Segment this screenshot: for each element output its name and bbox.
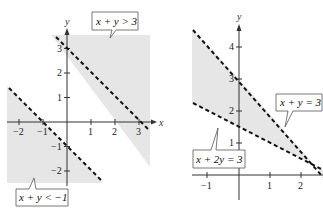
left-y-axis-arrow bbox=[65, 28, 70, 35]
left-y-axis-label: y bbox=[64, 16, 70, 27]
left-y-tick-label: 2 bbox=[57, 67, 62, 78]
left-x-tick-label: 2 bbox=[112, 126, 117, 137]
right-x-tick-label: 1 bbox=[267, 180, 272, 191]
left-y-tick-label: −2 bbox=[51, 165, 62, 176]
left-shaded-regions bbox=[0, 24, 200, 200]
left-x-tick-label: 1 bbox=[88, 126, 93, 137]
right-x-tick-label: −1 bbox=[201, 180, 212, 191]
left-y-tick-label: 1 bbox=[57, 92, 62, 103]
left-graph: x y −2 −1 1 2 3 3 2 1 −1 −2 bbox=[0, 12, 200, 206]
label-x-plus-y-lt-neg1: x + y < −1 bbox=[18, 191, 68, 203]
figure-canvas: x y −2 −1 1 2 3 3 2 1 −1 −2 bbox=[0, 0, 323, 216]
right-y-axis-label: y bbox=[236, 11, 242, 22]
right-graph: y −1 1 2 4 3 2 1 x + y = 3 bbox=[192, 11, 323, 200]
left-x-tick-label: −1 bbox=[37, 126, 48, 137]
callout-x-plus-2y-eq-3: x + 2y = 3 bbox=[193, 128, 245, 168]
left-x-axis-label: x bbox=[158, 117, 164, 128]
right-y-tick-label: 4 bbox=[229, 41, 234, 52]
right-y-axis-arrow bbox=[237, 24, 242, 31]
left-x-tick-label: 3 bbox=[136, 126, 141, 137]
left-x-axis-arrow bbox=[151, 120, 157, 125]
callout-x-plus-y-gt-3: x + y > 3 bbox=[92, 12, 138, 38]
left-y-tick-label: −1 bbox=[51, 141, 62, 152]
callout-x-plus-y-eq-3: x + y = 3 bbox=[276, 94, 322, 127]
left-y-tick-label: 3 bbox=[57, 43, 62, 54]
label-x-plus-y-eq-3: x + y = 3 bbox=[279, 96, 322, 108]
label-x-plus-2y-eq-3: x + 2y = 3 bbox=[195, 153, 243, 165]
right-y-tick-label: 1 bbox=[229, 137, 234, 148]
label-x-plus-y-gt-3: x + y > 3 bbox=[95, 15, 138, 27]
right-y-tick-label: 2 bbox=[229, 105, 234, 116]
right-x-tick-label: 2 bbox=[298, 180, 303, 191]
left-x-tick-label: −2 bbox=[13, 126, 24, 137]
